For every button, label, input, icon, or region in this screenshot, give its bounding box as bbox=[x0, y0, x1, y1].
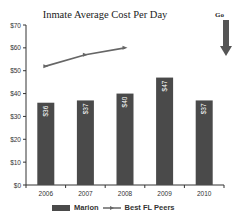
line-marker bbox=[83, 53, 88, 57]
bar-2009 bbox=[156, 78, 173, 185]
chart-plot-area: $0$10$20$30$40$50$60$7020062007200820092… bbox=[0, 0, 234, 216]
legend-label-peers: Best FL Peers bbox=[125, 203, 175, 212]
x-tick-label: 2007 bbox=[78, 190, 93, 197]
bar-value-label: $36 bbox=[42, 105, 49, 116]
y-tick-label: $50 bbox=[10, 67, 21, 74]
y-tick-label: $0 bbox=[14, 182, 22, 189]
bar-value-label: $37 bbox=[82, 103, 89, 114]
line-marker bbox=[43, 64, 48, 68]
y-tick-label: $10 bbox=[10, 159, 21, 166]
bar-value-label: $47 bbox=[161, 80, 168, 91]
y-tick-label: $30 bbox=[10, 113, 21, 120]
y-tick-label: $60 bbox=[10, 44, 21, 51]
legend-swatch-peers bbox=[103, 205, 121, 211]
legend-label-marion: Marion bbox=[74, 203, 99, 212]
line-best-fl-peers bbox=[46, 48, 125, 66]
x-tick-label: 2010 bbox=[197, 190, 212, 197]
y-tick-label: $40 bbox=[10, 90, 21, 97]
line-marker bbox=[123, 46, 128, 50]
x-tick-label: 2006 bbox=[39, 190, 54, 197]
chart-legend: Marion Best FL Peers bbox=[52, 203, 174, 212]
x-tick-label: 2008 bbox=[118, 190, 133, 197]
bar-value-label: $37 bbox=[200, 103, 207, 114]
y-tick-label: $70 bbox=[10, 22, 21, 29]
x-tick-label: 2009 bbox=[157, 190, 172, 197]
y-tick-label: $20 bbox=[10, 136, 21, 143]
legend-swatch-marion bbox=[52, 205, 70, 211]
bar-value-label: $40 bbox=[121, 96, 128, 107]
